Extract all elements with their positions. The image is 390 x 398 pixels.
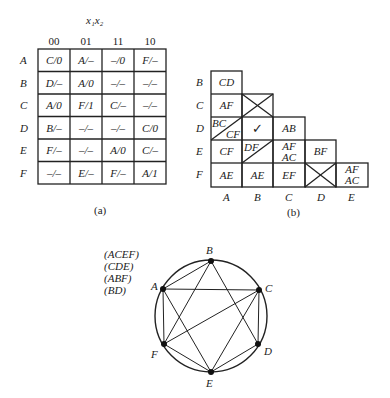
graph-node-c: [256, 287, 262, 293]
graph-node-f: [161, 341, 167, 347]
graph-edges: [163, 261, 259, 372]
graph-node-a: [160, 286, 166, 292]
graph-edge-e-d: [211, 344, 258, 372]
node-label-b: B: [206, 244, 213, 256]
graph-edge-a-f: [163, 289, 164, 344]
graph-circle: [155, 260, 267, 372]
graph-canvas: [0, 0, 390, 398]
graph-node-b: [208, 258, 214, 264]
graph-edge-a-c: [163, 289, 259, 290]
node-label-f: F: [151, 348, 158, 360]
node-label-d: D: [264, 345, 272, 357]
graph-nodes: [160, 258, 262, 375]
node-label-a: A: [151, 280, 158, 292]
graph-edge-f-e: [164, 344, 211, 372]
graph-edge-c-d: [258, 290, 259, 344]
graph-node-e: [208, 369, 214, 375]
node-label-c: C: [265, 282, 272, 294]
node-label-e: E: [206, 377, 213, 389]
graph-edge-c-e: [211, 290, 259, 372]
graph-edge-c-f: [164, 290, 259, 344]
graph-node-d: [255, 341, 261, 347]
